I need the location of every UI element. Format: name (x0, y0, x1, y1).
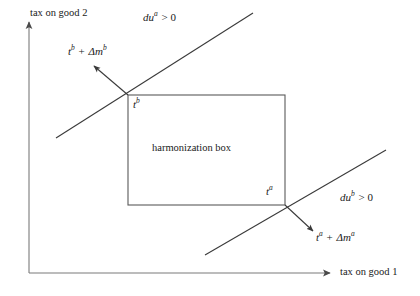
x-axis-label: tax on good 1 (340, 267, 397, 278)
annotation-ta-shift: ta + Δma (316, 232, 355, 243)
annotation-tb-shift-operator: + (75, 45, 89, 57)
point-label-tb-superscript: b (136, 96, 140, 105)
y-axis-label: tax on good 2 (30, 8, 87, 19)
annotation-tb-shift-delta: Δm (89, 45, 103, 57)
annotation-ta-shift-delta-superscript: a (351, 229, 355, 238)
annotation-ta-shift-operator: + (323, 231, 337, 243)
annotation-du-b: dub > 0 (340, 192, 374, 203)
point-label-ta: ta (266, 186, 273, 197)
annotation-tb-shift: tb + Δmb (68, 46, 107, 57)
diagram-canvas: tax on good 2 tax on good 1 harmonizatio… (0, 0, 420, 296)
annotation-du-a-relation: > 0 (158, 11, 177, 23)
annotation-du-b-relation: > 0 (355, 191, 374, 203)
annotation-ta-shift-delta: Δm (337, 231, 351, 243)
harmonization-box-label: harmonization box (152, 143, 231, 154)
point-label-tb: tb (133, 99, 140, 110)
gradient-arrow-tb (94, 66, 128, 95)
annotation-du-a: dua > 0 (143, 12, 177, 23)
annotation-tb-shift-delta-superscript: b (103, 43, 107, 52)
indifference-line-upper (56, 13, 253, 138)
gradient-arrow-ta (285, 205, 313, 231)
point-label-ta-superscript: a (269, 183, 273, 192)
